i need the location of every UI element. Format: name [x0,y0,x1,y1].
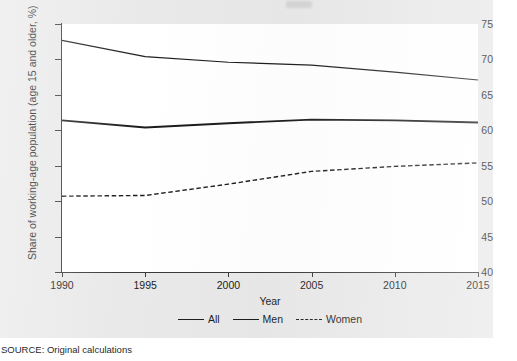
y-axis-line [61,23,62,273]
x-tick-label: 2005 [289,280,335,291]
legend-item-all[interactable]: All [178,313,220,325]
x-tick-label: 2010 [372,280,418,291]
legend-item-women[interactable]: Women [296,313,362,325]
x-axis-title: Year [61,295,479,307]
scan-artifact [286,1,312,8]
x-tick-mark [395,272,396,277]
legend-label: All [208,313,220,325]
y-tick-label: 50 [441,196,493,207]
legend-swatch-icon [178,315,204,324]
y-tick-mark [55,24,61,25]
x-tick-mark [228,272,229,277]
source-note: SOURCE: Original calculations [1,344,132,355]
x-axis-line [61,272,479,273]
legend-swatch-icon [296,315,322,324]
x-tick-mark [312,272,313,277]
y-tick-mark [55,201,61,202]
y-tick-label: 75 [441,19,493,30]
figure-panel: 4045505560657075 19901995200020052010201… [0,0,493,338]
y-tick-label: 60 [441,125,493,136]
x-tick-mark [145,272,146,277]
legend-swatch-icon [233,315,259,324]
x-tick-mark [62,272,63,277]
y-tick-label: 45 [441,232,493,243]
y-tick-label: 40 [441,267,493,278]
y-tick-label: 70 [441,54,493,65]
y-axis-title: Share of working-age population (age 15 … [26,30,38,260]
y-tick-label: 55 [441,161,493,172]
y-tick-mark [55,95,61,96]
legend-label: Women [326,313,362,325]
plot-area [62,24,478,272]
x-tick-label: 1990 [39,280,85,291]
y-tick-mark [55,272,61,273]
y-tick-mark [55,59,61,60]
y-tick-mark [55,237,61,238]
chart-legend: AllMenWomen [61,313,479,325]
x-tick-mark [478,272,479,277]
y-tick-mark [55,166,61,167]
x-tick-label: 2015 [455,280,501,291]
legend-label: Men [263,313,283,325]
y-tick-label: 65 [441,90,493,101]
legend-item-men[interactable]: Men [233,313,283,325]
y-tick-mark [55,130,61,131]
x-tick-label: 1995 [122,280,168,291]
x-tick-label: 2000 [205,280,251,291]
